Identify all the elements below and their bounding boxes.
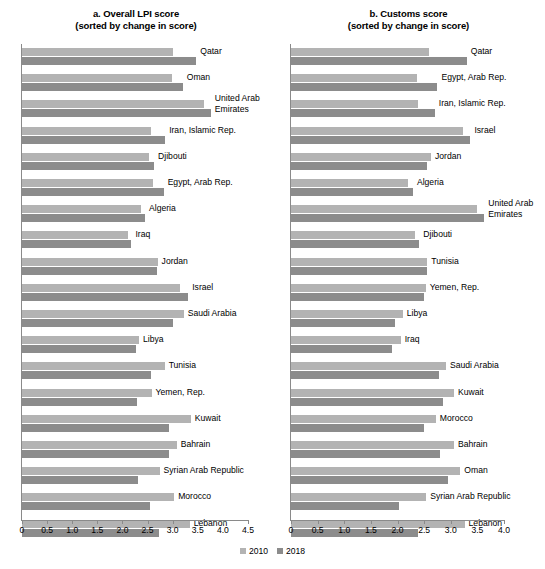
bar-category-label: Jordan bbox=[162, 257, 188, 267]
x-axis-line-a bbox=[21, 520, 249, 521]
legend-item: 2010 bbox=[240, 546, 268, 556]
x-axis-tick bbox=[198, 520, 199, 524]
bar-2010 bbox=[22, 153, 149, 161]
x-axis-tick bbox=[451, 520, 452, 524]
bar-2018 bbox=[291, 476, 448, 484]
panel-a-title-line1: a. Overall LPI score bbox=[93, 8, 179, 19]
x-axis-tick-label: 2.0 bbox=[392, 525, 404, 535]
bar-2010 bbox=[22, 389, 152, 397]
bar-2018 bbox=[291, 371, 439, 379]
x-axis-tick-label: 1.0 bbox=[66, 525, 78, 535]
bar-row: Bahrain bbox=[291, 441, 504, 459]
bar-2018 bbox=[22, 57, 196, 65]
chart-legend: 20102018 bbox=[0, 546, 545, 556]
bar-2010 bbox=[291, 284, 426, 292]
bar-category-label: Oman bbox=[187, 73, 210, 83]
x-axis-tick-label: 3.5 bbox=[192, 525, 204, 535]
x-axis-tick bbox=[318, 520, 319, 524]
bar-2010 bbox=[291, 153, 431, 161]
bar-category-label: Syrian Arab Republic bbox=[164, 466, 244, 476]
bar-row: Iraq bbox=[291, 336, 504, 354]
x-axis-tick bbox=[248, 520, 249, 524]
bar-2010 bbox=[22, 231, 128, 239]
bar-2018 bbox=[22, 450, 169, 458]
bar-category-label: Morocco bbox=[440, 414, 473, 424]
bar-category-label: Yemen, Rep. bbox=[430, 283, 479, 293]
x-axis-a: 00.51.01.52.02.53.03.54.04.5 bbox=[22, 520, 248, 544]
bar-row: Israel bbox=[22, 284, 248, 302]
bar-row: Kuwait bbox=[22, 415, 248, 433]
bar-2010 bbox=[291, 310, 403, 318]
x-axis-b: 00.51.01.52.02.53.03.54.0 bbox=[291, 520, 504, 544]
plot-area-b: QatarEgypt, Arab Rep.Iran, Islamic Rep.I… bbox=[291, 44, 504, 520]
legend-label: 2018 bbox=[286, 546, 305, 556]
x-axis-tick-label: 0.5 bbox=[312, 525, 324, 535]
bar-2018 bbox=[291, 267, 427, 275]
legend-swatch bbox=[277, 548, 283, 554]
bar-row: Syrian Arab Republic bbox=[22, 467, 248, 485]
bar-row: Saudi Arabia bbox=[291, 362, 504, 380]
bar-2018 bbox=[291, 188, 413, 196]
x-axis-tick bbox=[398, 520, 399, 524]
bar-2010 bbox=[291, 205, 477, 213]
bar-category-label: Libya bbox=[407, 309, 428, 319]
bar-row: Oman bbox=[291, 467, 504, 485]
bar-row: Egypt, Arab Rep. bbox=[22, 179, 248, 197]
panel-customs: b. Customs score (sorted by change in sc… bbox=[272, 0, 545, 545]
x-axis-tick bbox=[148, 520, 149, 524]
x-axis-tick bbox=[47, 520, 48, 524]
bar-2010 bbox=[291, 493, 426, 501]
bar-2010 bbox=[291, 389, 454, 397]
bar-row: Libya bbox=[291, 310, 504, 328]
bar-2018 bbox=[22, 214, 145, 222]
x-axis-tick-label: 2.0 bbox=[116, 525, 128, 535]
panel-b-title-line1: b. Customs score bbox=[369, 8, 447, 19]
bar-category-label: Bahrain bbox=[181, 440, 211, 450]
bar-2010 bbox=[291, 179, 408, 187]
bar-2018 bbox=[22, 345, 136, 353]
bar-2010 bbox=[22, 467, 160, 475]
bar-category-label: Israel bbox=[474, 126, 495, 136]
legend-swatch bbox=[240, 548, 246, 554]
bar-row: Djibouti bbox=[22, 153, 248, 171]
bar-2010 bbox=[291, 441, 454, 449]
bar-category-label: Algeria bbox=[149, 204, 176, 214]
bar-2018 bbox=[22, 109, 211, 117]
bar-2018 bbox=[22, 83, 183, 91]
x-axis-tick-label: 0.5 bbox=[41, 525, 53, 535]
bar-2018 bbox=[291, 319, 395, 327]
bar-2018 bbox=[291, 345, 392, 353]
bar-row: Yemen, Rep. bbox=[291, 284, 504, 302]
bar-2010 bbox=[291, 362, 446, 370]
x-axis-tick bbox=[477, 520, 478, 524]
bar-2010 bbox=[22, 336, 139, 344]
bar-2018 bbox=[22, 371, 151, 379]
legend-label: 2010 bbox=[249, 546, 268, 556]
bar-category-label: Tunisia bbox=[431, 257, 458, 267]
bar-2018 bbox=[22, 319, 173, 327]
bar-category-label: Qatar bbox=[471, 47, 493, 57]
bar-2018 bbox=[22, 502, 150, 510]
bar-category-label: Bahrain bbox=[458, 440, 488, 450]
legend-item: 2018 bbox=[277, 546, 305, 556]
bar-category-label: Iran, Islamic Rep. bbox=[439, 99, 506, 109]
bar-category-label: Oman bbox=[464, 466, 487, 476]
bar-2010 bbox=[22, 100, 204, 108]
bar-2010 bbox=[22, 441, 177, 449]
bar-category-label: Qatar bbox=[200, 47, 222, 57]
x-axis-tick-label: 0 bbox=[20, 525, 25, 535]
bar-category-label: Kuwait bbox=[458, 388, 484, 398]
bar-row: Jordan bbox=[22, 258, 248, 276]
x-axis-tick bbox=[72, 520, 73, 524]
bar-category-label: Saudi Arabia bbox=[188, 309, 237, 319]
x-axis-tick-label: 4.0 bbox=[217, 525, 229, 535]
bar-2018 bbox=[291, 136, 470, 144]
x-axis-tick bbox=[122, 520, 123, 524]
bar-2010 bbox=[291, 100, 418, 108]
bar-2018 bbox=[291, 293, 424, 301]
bar-category-label: Djibouti bbox=[158, 152, 187, 162]
bar-category-label: Yemen, Rep. bbox=[156, 388, 205, 398]
bar-2010 bbox=[22, 127, 151, 135]
bar-2018 bbox=[291, 57, 467, 65]
plot-area-a: QatarOmanUnited Arab EmiratesIran, Islam… bbox=[22, 44, 248, 520]
